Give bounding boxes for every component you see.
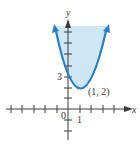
x-axis-label: x [132, 105, 136, 115]
y-axis-arrow-icon [65, 19, 71, 28]
y-axis-label: y [66, 8, 70, 18]
origin-label: 0 [61, 111, 66, 121]
y-tick-label-3: 3 [57, 72, 62, 82]
x-tick-label-1: 1 [77, 115, 82, 125]
graph-canvas [0, 0, 140, 151]
vertex-label: (1, 2) [88, 87, 110, 97]
